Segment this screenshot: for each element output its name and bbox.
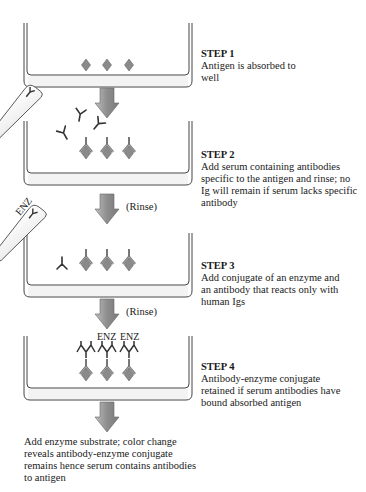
conjugate-antibody <box>77 341 95 358</box>
conjugate-antibody <box>57 257 67 269</box>
step-2-text: STEP 2 Add serum containing antibodies s… <box>201 149 361 209</box>
conjugate-antibody <box>98 341 116 358</box>
free-antibody <box>90 117 105 133</box>
step-description: Add serum containing antibodies specific… <box>201 161 361 209</box>
rinse-label: (Rinse) <box>126 306 157 317</box>
well-step-2 <box>24 108 192 185</box>
step-3-text: STEP 3 Add conjugate of an enzyme and an… <box>201 260 351 308</box>
final-step-text: Add enzyme substrate; color change revea… <box>24 436 204 484</box>
enzyme-label: ENZ <box>120 331 139 342</box>
down-arrow-icon <box>95 194 119 224</box>
antigen <box>103 59 112 71</box>
step-4-text: STEP 4 Antibody-enzyme conjugate retaine… <box>201 361 341 409</box>
rinse-label: (Rinse) <box>126 201 157 212</box>
step-description: Add conjugate of an enzyme and an antibo… <box>201 272 351 308</box>
step-description: Antigen is absorbed to well <box>201 60 301 84</box>
step-description: Antibody-enzyme conjugate retained if se… <box>201 373 341 409</box>
elisa-diagram: ENZ ENZ ENZ <box>0 0 366 492</box>
down-arrow-icon <box>95 88 119 118</box>
step-title: STEP 3 <box>201 260 351 272</box>
antigen <box>125 59 134 71</box>
step-title: STEP 2 <box>201 149 361 161</box>
well-step-1 <box>24 23 192 87</box>
step-title: STEP 4 <box>201 361 341 373</box>
well-step-3 <box>24 233 192 297</box>
step-title: STEP 1 <box>201 48 301 60</box>
down-arrow-icon <box>95 402 119 432</box>
antigen <box>82 59 91 71</box>
down-arrow-icon <box>95 299 119 329</box>
well-step-4: ENZ ENZ <box>24 331 192 400</box>
step-1-text: STEP 1 Antigen is absorbed to well <box>201 48 301 84</box>
conjugate-antibody <box>120 341 138 358</box>
free-antibody <box>74 108 86 122</box>
pipette-icon <box>0 83 44 149</box>
free-antibody <box>57 126 72 141</box>
enzyme-label: ENZ <box>97 331 116 342</box>
